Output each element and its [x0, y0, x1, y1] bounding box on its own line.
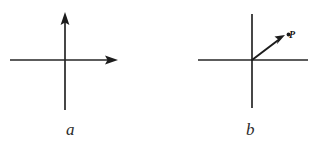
panel-b-caption: b [246, 121, 255, 138]
panel-a [10, 12, 118, 110]
panel-a-caption: a [66, 121, 75, 138]
figure-canvas [0, 0, 314, 148]
panel-b-position-vector [252, 40, 279, 61]
figure-container: P a b [0, 0, 314, 148]
panel-b-point-p-label: P [289, 30, 295, 40]
